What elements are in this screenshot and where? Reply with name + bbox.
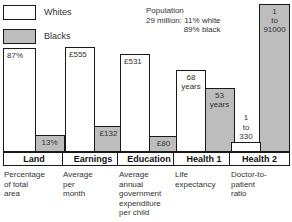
- caption-land: Percentage of total area: [4, 170, 66, 222]
- bar-value-earnings-whites: £555: [66, 50, 94, 59]
- bar-value-health-2-blacks-line-2: to: [260, 16, 289, 25]
- category-label-earnings: Earnings: [74, 155, 113, 164]
- caption-health-2-line-3: ratio: [231, 189, 292, 199]
- bar-value-education-whites: £531: [121, 57, 149, 66]
- bar-value-health-2-whites-line-3: 330: [231, 132, 261, 142]
- bar-land-blacks: 13%: [34, 135, 65, 152]
- bar-group-land: 87% 13% Land Percentage of total area: [3, 0, 63, 222]
- category-plate-earnings: Earnings: [62, 152, 124, 166]
- category-label-education: Education: [127, 155, 171, 164]
- category-plate-education: Education: [117, 152, 181, 166]
- bar-health-1-whites: 68 years: [176, 70, 206, 152]
- category-label-land: Land: [23, 155, 45, 164]
- bar-value-health-2-whites: 1 to 330: [231, 113, 261, 142]
- caption-health-2: Doctor-to- patient ratio: [231, 170, 292, 222]
- caption-earnings-line-3: month: [63, 189, 123, 199]
- category-plate-health-1: Health 1: [173, 152, 235, 166]
- bar-education-blacks: £80: [148, 136, 179, 152]
- bar-value-health-1-whites-line-1: 68: [177, 73, 205, 82]
- bar-education-whites: £531: [120, 54, 150, 152]
- bar-land-whites: 87%: [3, 48, 36, 152]
- bar-health-2-whites: [231, 142, 261, 152]
- bar-value-health-2-whites-line-1: 1: [231, 113, 261, 123]
- bar-health-2-blacks: 1 to 91000: [259, 4, 290, 152]
- caption-health-1: Life expectancy: [175, 170, 237, 222]
- caption-health-2-line-1: Doctor-to-: [231, 170, 292, 180]
- caption-land-line-1: Percentage: [4, 170, 66, 180]
- bar-value-health-1-whites-line-2: years: [177, 82, 205, 91]
- bar-value-earnings-blacks: £132: [94, 129, 123, 138]
- category-plate-land: Land: [3, 152, 65, 166]
- bar-value-health-2-blacks-line-3: 91000: [260, 25, 289, 34]
- category-plate-health-2: Health 2: [229, 152, 290, 166]
- bar-value-education-blacks: £80: [149, 139, 178, 148]
- category-label-health-1: Health 1: [186, 155, 221, 164]
- bar-group-health-1: 68 years 53 years Health 1 Life expectan…: [173, 0, 233, 222]
- caption-earnings: Average per month: [63, 170, 123, 222]
- bar-group-earnings: £555 £132 Earnings Average per month: [60, 0, 120, 222]
- bar-value-health-1-blacks-line-1: 53: [205, 91, 234, 100]
- caption-earnings-line-1: Average: [63, 170, 123, 180]
- bar-value-health-2-whites-line-2: to: [231, 123, 261, 133]
- caption-health-1-line-2: expectancy: [175, 180, 237, 190]
- caption-earnings-line-2: per: [63, 180, 123, 190]
- bar-group-health-2: 1 to 91000 1 to 330 Health 2 Doctor-to- …: [229, 0, 291, 222]
- category-label-health-2: Health 2: [242, 155, 277, 164]
- caption-health-2-line-2: patient: [231, 180, 292, 190]
- bar-chart: 87% 13% Land Percentage of total area £5…: [0, 0, 292, 222]
- caption-health-1-line-1: Life: [175, 170, 237, 180]
- bar-value-health-1-blacks-line-2: years: [205, 100, 234, 109]
- bar-value-health-2-blacks-line-1: 1: [260, 7, 289, 16]
- bar-group-education: £531 £80 Education Average annual govern…: [117, 0, 177, 222]
- bar-earnings-whites: £555: [65, 47, 95, 152]
- bar-value-land-blacks: 13%: [35, 138, 64, 147]
- bar-value-land-whites: 87%: [4, 51, 35, 60]
- caption-land-line-3: area: [4, 189, 66, 199]
- caption-land-line-2: of total: [4, 180, 66, 190]
